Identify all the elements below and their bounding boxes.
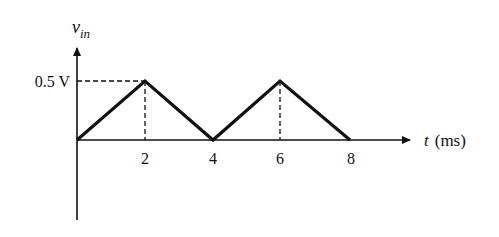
x-tick-label: 2 bbox=[141, 150, 149, 167]
y-axis-label: vin bbox=[72, 17, 90, 41]
x-tick-label: 8 bbox=[347, 150, 355, 167]
x-tick-label: 6 bbox=[276, 150, 284, 167]
triangle-wave-chart: vin 0.5 V 2 4 6 8 t(ms) bbox=[0, 0, 499, 237]
x-axis-label: t(ms) bbox=[424, 131, 466, 150]
y-tick-label: 0.5 V bbox=[35, 73, 71, 90]
x-tick-label: 4 bbox=[209, 150, 217, 167]
waveform-line bbox=[77, 81, 350, 140]
